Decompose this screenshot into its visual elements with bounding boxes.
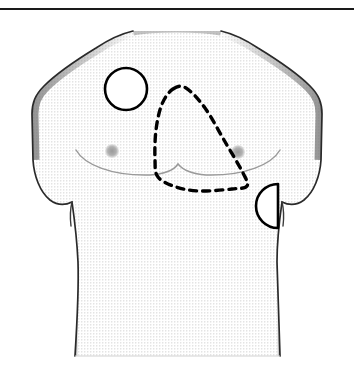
sleeve-edge-left xyxy=(70,202,72,226)
chest-anatomy-figure xyxy=(0,0,354,374)
nipple-left xyxy=(105,144,119,158)
sleeve-edge-right xyxy=(282,202,284,226)
shade-band-neck xyxy=(133,28,221,31)
circle-marker-upper-right-chest[interactable] xyxy=(105,68,147,110)
illustration-canvas xyxy=(0,0,354,374)
